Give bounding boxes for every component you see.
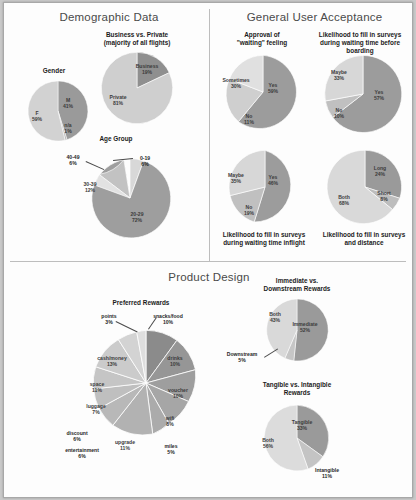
pie-survey-inflight: [226, 148, 304, 226]
slice-label-female: F 59%: [28, 110, 46, 122]
chart-survey-and-distance: Long 24% Short 8% Both 68% Likelihood to…: [312, 146, 413, 258]
slice-label-intangible: Intangible 11%: [310, 467, 344, 479]
slice-label-both: Both 43%: [266, 311, 284, 323]
chart-title: Approval of "waiting" feeling: [220, 31, 304, 47]
pie-age-group: [88, 156, 172, 240]
divider-vertical: [209, 9, 210, 261]
chart-approval-waiting: Approval of "waiting" feeling Yes 59% So…: [216, 31, 308, 141]
slice-label-discount: discount 6%: [60, 430, 94, 442]
chart-title: Gender: [26, 67, 82, 75]
pie-approval-waiting: [224, 53, 302, 131]
slice-label-upgrade: upgrade 11%: [110, 439, 140, 451]
slice-label-points: points 3%: [96, 313, 122, 325]
chart-survey-before-boarding: Likelihood to fill in surveys during wai…: [308, 31, 413, 141]
chart-immediate-vs-downstream: Immediate vs. Downstream Rewards Immedia…: [232, 277, 342, 377]
chart-title: Likelihood to fill in surveys and distan…: [312, 231, 413, 247]
slice-label-20-29: 20-29 72%: [124, 211, 150, 223]
slice-label-male: M 41%: [59, 97, 77, 109]
slice-label-yes: Yes 59%: [264, 82, 282, 94]
slice-label-cash-money: cash/money 13%: [92, 355, 132, 367]
slice-label-maybe: Maybe 33%: [328, 69, 350, 81]
slice-label-space: space 11%: [84, 381, 110, 393]
chart-tangible-vs-intangible: Tangible vs. Intangible Rewards Tangible…: [232, 381, 362, 491]
slice-label-miles: miles 5%: [158, 443, 184, 455]
slice-label-0-19: 0-19 6%: [132, 155, 158, 167]
slice-label-yes: Yes 57%: [370, 89, 388, 101]
slice-label-entertainment: entertainment 6%: [58, 447, 106, 459]
chart-title: Immediate vs. Downstream Rewards: [254, 277, 340, 293]
slice-label-maybe: Maybe 35%: [225, 172, 247, 184]
slice-label-no: No 19%: [240, 204, 258, 216]
section-title-acceptance: General User Acceptance: [222, 11, 407, 23]
slice-label-drinks: drinks 10%: [162, 355, 188, 367]
pie-survey-before-boarding: [322, 53, 404, 135]
slice-label-tangible: Tangible 33%: [288, 419, 316, 431]
slice-label-wifi: wifi 8%: [159, 415, 181, 427]
slice-label-luggage: luggage 7%: [82, 403, 110, 415]
poster-page: Demographic Data General User Acceptance…: [3, 2, 413, 498]
chart-gender: Gender M 41% F 59% n/a 1%: [20, 67, 112, 145]
slice-label-40-49: 40-49 6%: [60, 154, 86, 166]
chart-title: Age Group: [86, 135, 146, 143]
pie-survey-and-distance: [326, 148, 404, 226]
slice-label-na: n/a 1%: [60, 122, 76, 134]
divider-horizontal: [10, 261, 406, 262]
slice-label-downstream: Downstream 5%: [220, 351, 264, 363]
slice-label-voucher: voucher 10%: [164, 387, 192, 399]
slice-label-short: Short 8%: [374, 190, 394, 202]
section-title-demographic: Demographic Data: [24, 11, 194, 23]
chart-title: Preferred Rewards: [96, 299, 186, 307]
slice-label-business: Business 19%: [131, 63, 163, 75]
slice-label-sometimes: Sometimes 30%: [220, 77, 252, 89]
slice-label-no: No 11%: [240, 113, 258, 125]
chart-preferred-rewards: Preferred Rewards snacks/food 10% drinks…: [54, 299, 234, 489]
chart-title: Tangible vs. Intangible Rewards: [242, 381, 352, 397]
slice-label-yes: Yes 46%: [264, 174, 282, 186]
chart-title: Business vs. Private (majority of all fl…: [82, 31, 192, 47]
chart-title: Likelihood to fill in surveys during wai…: [212, 231, 316, 247]
slice-label-30-39: 30-39 12%: [77, 181, 103, 193]
slice-label-both: Both 56%: [258, 437, 278, 449]
chart-title: Likelihood to fill in surveys during wai…: [308, 31, 412, 55]
chart-survey-inflight: Yes 46% Maybe 35% No 19% Likelihood to f…: [214, 146, 314, 258]
slice-label-long: Long 24%: [370, 165, 390, 177]
slice-label-no: No 10%: [330, 107, 348, 119]
slice-label-immediate: Immediate 52%: [290, 321, 320, 333]
slice-label-both: Both 68%: [334, 194, 354, 206]
chart-age-group: Age Group 0-19 6% 20-29 72% 30-39 12% 40…: [60, 135, 200, 243]
